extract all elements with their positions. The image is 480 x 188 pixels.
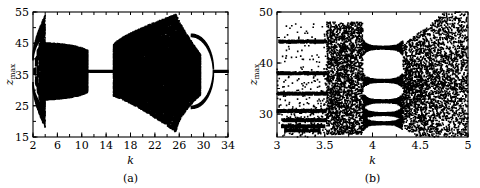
x-tick-label: 6 (54, 139, 61, 152)
x-tick-label: 18 (124, 139, 138, 152)
y-tick-label: 30 (259, 108, 273, 121)
panel-a-plot: 26101418222630341525354555kzmax(a) (0, 0, 240, 188)
x-axis-title: k (127, 154, 134, 167)
x-tick-label: 4.5 (412, 139, 430, 152)
bifurcation-figure: 26101418222630341525354555kzmax(a) 33.54… (0, 0, 480, 188)
svg-text:zmax: zmax (3, 63, 17, 86)
y-tick-label: 15 (15, 131, 29, 144)
x-tick-label: 10 (75, 139, 89, 152)
x-tick-label: 26 (172, 139, 186, 152)
y-tick-label: 45 (15, 37, 29, 50)
x-tick-label: 2 (30, 139, 37, 152)
y-axis-title: zmax (247, 63, 261, 86)
x-tick-label: 30 (197, 139, 211, 152)
y-tick-label: 55 (15, 6, 29, 19)
y-tick-label: 50 (259, 6, 273, 19)
x-tick-label: 4 (369, 139, 376, 152)
x-tick-label: 14 (99, 139, 113, 152)
panel-caption: (b) (365, 172, 381, 185)
x-tick-label: 3.5 (316, 139, 334, 152)
data-points (32, 14, 229, 132)
scatter-points (32, 14, 229, 132)
x-tick-label: 34 (221, 139, 235, 152)
svg-text:zmax: zmax (247, 63, 261, 86)
x-axis-title: k (369, 154, 376, 167)
panel-b: 33.544.55304050kzmax(b) (240, 0, 480, 188)
scatter-points (276, 11, 468, 138)
panel-caption: (a) (123, 172, 138, 185)
data-points (276, 11, 468, 138)
panel-a: 26101418222630341525354555kzmax(a) (0, 0, 240, 188)
x-tick-label: 22 (148, 139, 162, 152)
x-tick-label: 5 (465, 139, 472, 152)
panel-b-plot: 33.544.55304050kzmax(b) (240, 0, 480, 188)
y-tick-label: 25 (15, 100, 29, 113)
y-axis-title: zmax (3, 63, 17, 86)
x-tick-label: 3 (274, 139, 281, 152)
